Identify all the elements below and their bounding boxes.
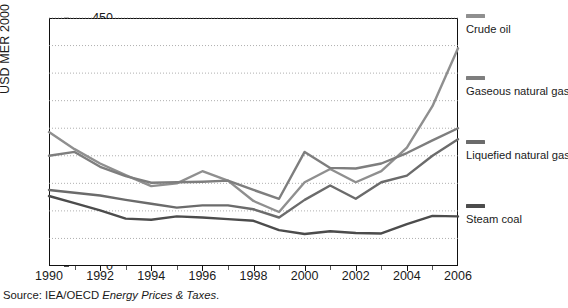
legend-item-crude-oil[interactable]: Crude oil [466, 14, 568, 36]
series-line-gaseous-natural-gas [49, 128, 458, 199]
x-tick-label: 2004 [393, 270, 421, 283]
legend-label: Gaseous natural gas [466, 85, 568, 98]
x-tick-label: 1992 [86, 270, 114, 283]
x-tick-mark-minor [432, 266, 433, 270]
x-tick-mark-minor [177, 266, 178, 270]
x-tick-label: 1998 [240, 270, 268, 283]
plot-area: 199019921994199619982000200220042006 [49, 18, 458, 266]
legend-item-liquefied-natural-gas[interactable]: Liquefied natural gas [466, 140, 568, 162]
chart-figure: USD MER 2000 per toe 0501001502002503003… [0, 0, 568, 308]
legend-label: Liquefied natural gas [466, 149, 568, 162]
source-suffix: . [216, 289, 219, 301]
x-tick-mark-minor [330, 266, 331, 270]
y-tick-mark [64, 266, 69, 267]
x-tick-label: 1990 [35, 270, 63, 283]
x-tick-mark-minor [75, 266, 76, 270]
x-tick-label: 2000 [291, 270, 319, 283]
series-canvas [49, 18, 458, 266]
legend-label: Steam coal [466, 213, 568, 226]
legend-label: Crude oil [466, 23, 568, 36]
legend-item-gaseous-natural-gas[interactable]: Gaseous natural gas [466, 76, 568, 98]
x-tick-mark-minor [228, 266, 229, 270]
x-tick-label: 2002 [342, 270, 370, 283]
series-line-liquefied-natural-gas [49, 139, 458, 217]
x-tick-label: 1994 [137, 270, 165, 283]
y-axis-label: USD MER 2000 per toe [0, 0, 12, 94]
x-tick-mark-minor [381, 266, 382, 270]
legend-swatch [466, 14, 485, 18]
source-title: Energy Prices & Taxes [102, 289, 216, 301]
source-note: Source: IEA/OECD Energy Prices & Taxes. [3, 289, 219, 301]
x-tick-mark-minor [126, 266, 127, 270]
legend-item-steam-coal[interactable]: Steam coal [466, 204, 568, 226]
legend-swatch [466, 140, 485, 144]
x-tick-mark-minor [279, 266, 280, 270]
legend-swatch [466, 76, 485, 80]
source-prefix: Source: IEA/OECD [3, 289, 102, 301]
x-tick-label: 2006 [444, 270, 472, 283]
x-tick-label: 1996 [188, 270, 216, 283]
legend-swatch [466, 204, 485, 208]
